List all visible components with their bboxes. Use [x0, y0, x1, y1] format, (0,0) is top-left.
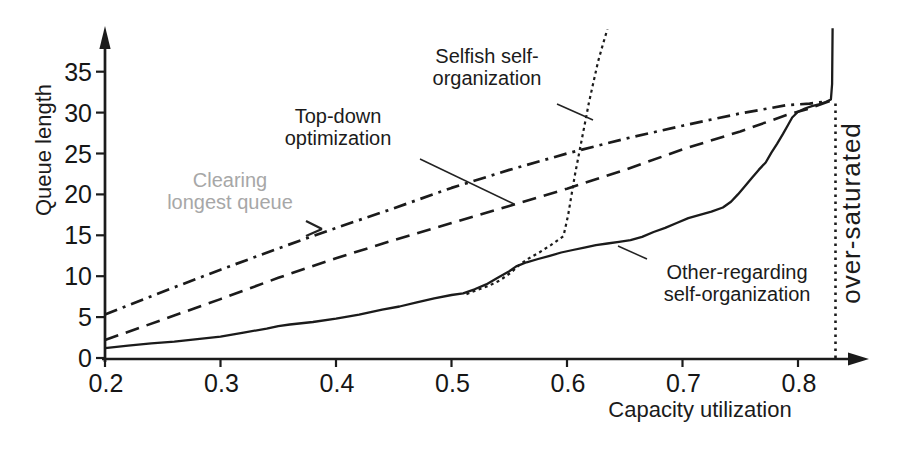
- label-other-line1: Other-regarding: [666, 261, 807, 283]
- leader-line-other: [618, 246, 647, 259]
- x-tick-label: 0.2: [89, 369, 124, 397]
- y-tick-label: 5: [78, 303, 92, 331]
- label-topdown-line2: optimization: [285, 127, 392, 149]
- label-topdown-line1: Top-down: [295, 105, 382, 127]
- figure-queue-length-vs-capacity-utilization: 0.20.30.40.50.60.70.805101520253035 Self…: [0, 0, 905, 449]
- x-tick-label: 0.5: [435, 369, 470, 397]
- x-tick-label: 0.3: [204, 369, 239, 397]
- x-axis-arrow-icon: [848, 353, 869, 366]
- y-tick-label: 15: [64, 221, 92, 249]
- y-axis-title: Queue length: [33, 40, 59, 260]
- y-tick-label: 30: [64, 99, 92, 127]
- y-tick-label: 25: [64, 140, 92, 168]
- label-selfish-line2: organization: [433, 67, 542, 89]
- leader-line-selfish: [557, 104, 593, 120]
- label-over-saturated: over-saturated: [841, 98, 873, 328]
- label-other-regarding-self-organization: Other-regarding self-organization: [642, 262, 832, 305]
- x-axis-title: Capacity utilization: [590, 399, 810, 421]
- label-top-down-optimization: Top-down optimization: [258, 106, 418, 149]
- y-tick-label: 35: [64, 58, 92, 86]
- label-other-line2: self-organization: [664, 283, 811, 305]
- y-tick-label: 10: [64, 262, 92, 290]
- label-clearing-longest-queue: Clearing longest queue: [145, 170, 315, 213]
- x-tick-label: 0.7: [666, 369, 701, 397]
- y-tick-label: 0: [78, 344, 92, 372]
- label-clearing-line2: longest queue: [167, 191, 293, 213]
- label-selfish-self-organization: Selfish self- organization: [402, 46, 572, 89]
- x-tick-label: 0.4: [320, 369, 355, 397]
- label-clearing-line1: Clearing: [193, 169, 267, 191]
- y-axis-arrow-icon: [99, 26, 110, 49]
- label-selfish-line1: Selfish self-: [435, 45, 538, 67]
- leader-line-topdown: [420, 159, 514, 204]
- y-tick-label: 20: [64, 180, 92, 208]
- x-tick-label: 0.8: [782, 369, 817, 397]
- x-tick-label: 0.6: [551, 369, 586, 397]
